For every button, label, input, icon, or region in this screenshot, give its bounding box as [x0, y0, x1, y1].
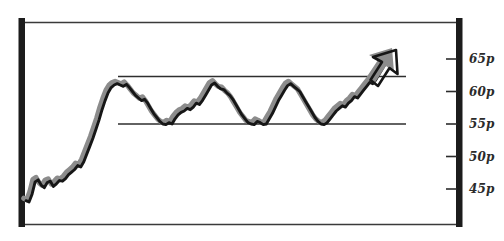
left-axis-rail: [19, 18, 26, 227]
chart-canvas: [0, 0, 504, 241]
y-axis-label-55p: 55p: [469, 117, 495, 131]
y-axis-label-50p: 50p: [469, 150, 495, 164]
y-axis-label-60p: 60p: [469, 85, 495, 99]
stock-chart-figure: 65p 60p 55p 50p 45p: [0, 0, 504, 241]
y-axis-label-45p: 45p: [469, 182, 495, 196]
y-axis-label-65p: 65p: [469, 52, 495, 66]
right-axis-rail: [456, 18, 463, 227]
